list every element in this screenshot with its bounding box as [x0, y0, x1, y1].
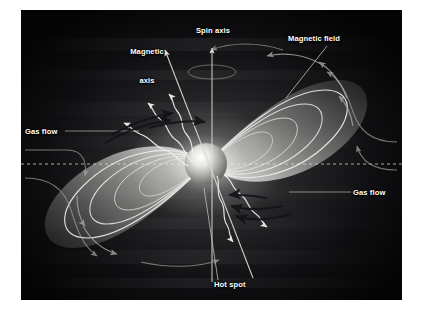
label-gas-flow-right: Gas flow — [353, 188, 385, 198]
label-spin-axis: Spin axis — [183, 26, 243, 36]
label-magnetic-axis-line1: Magnetic — [115, 47, 179, 57]
label-magnetic-axis: Magnetic axis — [115, 28, 179, 105]
label-hot-spot: Hot spot — [214, 280, 246, 290]
label-gas-flow-left: Gas flow — [25, 127, 57, 137]
label-magnetic-field: Magnetic field — [288, 34, 340, 44]
figure-page: Magnetic axis Spin axis Magnetic field G… — [0, 0, 424, 322]
diagram-canvas — [21, 10, 402, 300]
diagram-artwork: Magnetic axis Spin axis Magnetic field G… — [21, 10, 402, 300]
label-magnetic-axis-line2: axis — [115, 76, 179, 86]
